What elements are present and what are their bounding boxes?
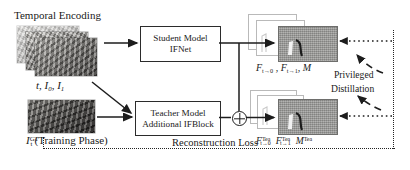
connector-layer: [0, 0, 410, 170]
distillation-arc-upper: [357, 55, 383, 73]
figure-canvas: Temporal Encoding t, I0, I1 IGTt(Trainin…: [0, 0, 410, 170]
arrow-encoding-to-teacher: [92, 82, 131, 113]
distillation-arc-lower: [358, 96, 381, 110]
